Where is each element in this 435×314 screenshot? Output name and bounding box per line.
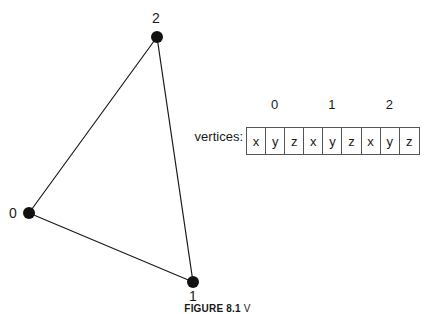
triangle-diagram: [0, 0, 220, 314]
array-cell: y: [381, 128, 400, 154]
vertex-dot-2: [151, 31, 163, 43]
array-index-2: 2: [361, 98, 418, 111]
array-index-row: 0 1 2: [246, 98, 418, 119]
vertices-array: x y z x y z x y z: [246, 127, 420, 155]
vertex-label-2: 2: [152, 11, 160, 25]
array-cell: x: [362, 128, 381, 154]
array-cell: y: [323, 128, 342, 154]
array-caption-label: vertices:: [193, 130, 243, 143]
array-cell: z: [285, 128, 304, 154]
figure-canvas: 2 0 1 0 1 2 vertices: x y z x y z x y z …: [0, 0, 435, 314]
vertex-label-1: 1: [189, 289, 197, 303]
array-index-0: 0: [246, 98, 303, 111]
edge-0-1: [29, 213, 193, 282]
triangle-edges: [29, 37, 193, 282]
vertex-dot-1: [187, 276, 199, 288]
array-cell: x: [247, 128, 266, 154]
figure-caption: FIGURE 8.1 V: [0, 303, 435, 314]
edge-0-2: [29, 37, 157, 213]
array-cell: z: [400, 128, 419, 154]
array-index-1: 1: [303, 98, 360, 111]
vertex-dot-0: [23, 207, 35, 219]
array-cell: x: [304, 128, 323, 154]
array-cell: z: [342, 128, 361, 154]
edge-2-1: [157, 37, 193, 282]
figure-caption-label: FIGURE 8.1: [184, 303, 240, 314]
triangle-vertex-dots: [23, 31, 199, 288]
vertices-array-block: 0 1 2 vertices: x y z x y z x y z: [193, 98, 425, 158]
array-cell: y: [266, 128, 285, 154]
figure-caption-text: V: [241, 303, 251, 314]
vertex-label-0: 0: [9, 206, 17, 220]
